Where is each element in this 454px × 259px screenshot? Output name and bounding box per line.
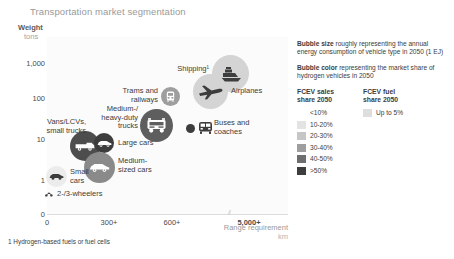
label-trams-railways: Trams and railways bbox=[108, 87, 158, 104]
bubble-buses-coaches[interactable] bbox=[186, 124, 195, 133]
label-medium-heavy-duty-trucks: Medium-/ heavy-duty trucks bbox=[84, 105, 138, 131]
y-tick-1000: 1,000 bbox=[3, 59, 45, 68]
y-tick-10: 10 bbox=[3, 135, 45, 144]
legend-col1-title: FCEV sales share 2050 bbox=[297, 88, 363, 104]
airplane-icon bbox=[198, 83, 224, 100]
axis-break-marker: // bbox=[228, 209, 230, 216]
bubble-airplanes[interactable] bbox=[193, 74, 228, 109]
legend-item-sales-5[interactable]: >50% bbox=[297, 166, 363, 177]
legend-label-sales-4: 40-50% bbox=[310, 155, 333, 163]
scooter-icon bbox=[45, 191, 53, 198]
legend-label-sales-0: <10% bbox=[310, 109, 327, 117]
label-2-3-wheelers: 2-/3-wheelers bbox=[57, 190, 117, 199]
legend-note-size-bold: Bubble size bbox=[297, 40, 334, 47]
legend-col-fcev-sales-share: FCEV sales share 2050 <10% 10-20% 20-30%… bbox=[297, 88, 363, 177]
legend-item-fuel-0[interactable]: Up to 5% bbox=[363, 108, 429, 119]
legend-note-color-bold: Bubble color bbox=[297, 64, 337, 71]
label-buses-coaches: Buses and coaches bbox=[214, 119, 270, 136]
label-medium-sized-cars: Medium- sized cars bbox=[118, 157, 172, 174]
x-axis-title: Range requirement km bbox=[196, 224, 288, 241]
car-icon bbox=[97, 140, 112, 147]
legend-swatch-sales-3 bbox=[297, 144, 306, 152]
legend-label-fuel-0: Up to 5% bbox=[376, 109, 403, 117]
legend-item-sales-2[interactable]: 20-30% bbox=[297, 131, 363, 142]
legend-panel: Bubble size roughly representing the ann… bbox=[297, 40, 449, 177]
legend-label-sales-5: >50% bbox=[310, 167, 327, 175]
legend-col-fcev-fuel-share: FCEV fuel share 2050 Up to 5% bbox=[363, 88, 429, 177]
legend-swatch-sales-1 bbox=[297, 121, 306, 129]
legend-label-sales-1: 10-20% bbox=[310, 121, 333, 129]
x-axis-unit: km bbox=[196, 233, 288, 242]
y-tick-100: 100 bbox=[3, 94, 45, 103]
bubble-2-3-wheelers[interactable] bbox=[45, 190, 53, 198]
legend-label-sales-2: 20-30% bbox=[310, 132, 333, 140]
legend-item-sales-3[interactable]: 30-40% bbox=[297, 143, 363, 154]
van-icon bbox=[75, 142, 95, 151]
truck-icon bbox=[147, 118, 166, 133]
x-axis-line bbox=[47, 214, 288, 215]
bubble-trams-railways[interactable] bbox=[161, 87, 180, 106]
x-axis-title-text: Range requirement bbox=[196, 224, 288, 233]
bus-icon bbox=[198, 121, 213, 135]
legend-swatch-sales-4 bbox=[297, 155, 306, 163]
chart-container: Transportation market segmentation Weigh… bbox=[0, 0, 454, 259]
page-title: Transportation market segmentation bbox=[30, 6, 186, 17]
x-tick-300: 300+ bbox=[87, 218, 131, 227]
tram-icon bbox=[166, 91, 175, 102]
legend-col2-title: FCEV fuel share 2050 bbox=[363, 88, 429, 104]
legend-swatch-fuel-0 bbox=[363, 109, 372, 117]
legend-item-sales-1[interactable]: 10-20% bbox=[297, 120, 363, 131]
y-tick-1: 1 bbox=[3, 176, 45, 185]
legend-swatch-sales-0 bbox=[297, 109, 306, 117]
legend-swatch-sales-2 bbox=[297, 132, 306, 140]
bus-icon-badge bbox=[197, 120, 213, 136]
footnote: 1 Hydrogen-based fuels or fuel cells bbox=[8, 238, 110, 245]
legend-note-bubble-color: Bubble color representing the market sha… bbox=[297, 64, 449, 81]
legend-note-bubble-size: Bubble size roughly representing the ann… bbox=[297, 40, 449, 57]
x-tick-0: 0 bbox=[25, 218, 69, 227]
label-large-cars: Large cars bbox=[118, 139, 168, 148]
label-airplanes: Airplanes bbox=[231, 87, 281, 96]
bubble-small-cars[interactable] bbox=[46, 166, 67, 187]
legend-item-sales-4[interactable]: 40-50% bbox=[297, 154, 363, 165]
legend-label-sales-3: 30-40% bbox=[310, 144, 333, 152]
x-tick-600: 600+ bbox=[150, 218, 194, 227]
legend-item-sales-0[interactable]: <10% bbox=[297, 108, 363, 119]
legend-columns: FCEV sales share 2050 <10% 10-20% 20-30%… bbox=[297, 88, 449, 177]
car-icon bbox=[49, 173, 64, 180]
label-vans-lcvs-small-trucks: Vans/LCVs, small trucks bbox=[30, 118, 86, 135]
label-small-cars: Small cars bbox=[70, 168, 104, 185]
bubble-large-cars[interactable] bbox=[94, 133, 114, 153]
label-shipping: Shipping¹ bbox=[162, 65, 209, 74]
legend-swatch-sales-5 bbox=[297, 167, 306, 175]
